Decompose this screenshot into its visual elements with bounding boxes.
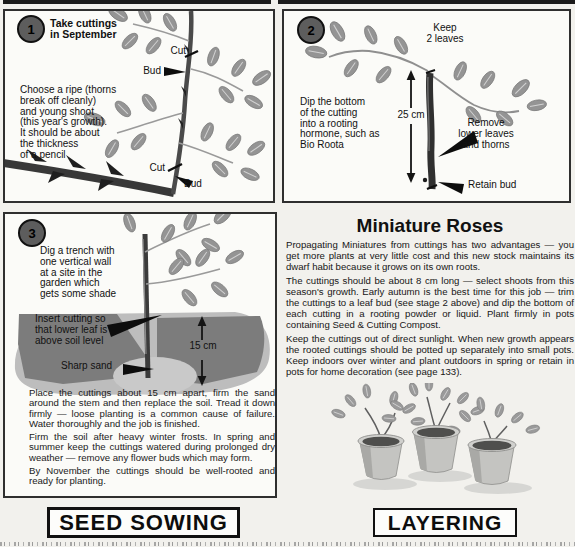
bottom-cut-mark xyxy=(427,185,437,189)
book-page: 1 Take cuttings in September Choose a ri… xyxy=(0,0,575,547)
bud-label-top: Bud xyxy=(119,66,161,77)
bud-nub xyxy=(423,178,427,182)
top-rule-left xyxy=(3,0,271,4)
label-text: LAYERING xyxy=(388,511,503,535)
pointer-arrow xyxy=(438,182,464,194)
measure-15cm-label: 15 cm xyxy=(182,341,224,352)
thorn-icon xyxy=(48,171,65,183)
main-shoot xyxy=(173,11,191,194)
pot-shadow xyxy=(353,478,417,490)
step3-paragraphs: Place the cuttings about 15 cm apart, fi… xyxy=(29,388,275,490)
step1-body-text: Choose a ripe (thorns break off cleanly)… xyxy=(20,85,138,161)
thorn-icon xyxy=(98,179,114,191)
retain-bud-label: Retain bud xyxy=(468,180,516,191)
paragraph: Keep the cuttings out of direct sunlight… xyxy=(286,333,574,377)
section-title: Miniature Roses xyxy=(286,216,574,236)
seed-sowing-section-label: SEED SOWING xyxy=(47,507,240,538)
top-cut-mark xyxy=(426,70,435,73)
thorn-icon xyxy=(178,118,183,129)
top-rule-right xyxy=(278,0,575,4)
dig-trench-label: Dig a trench with one vertical wall at a… xyxy=(40,246,152,300)
paragraph: Place the cuttings about 15 cm apart, fi… xyxy=(29,388,275,429)
keep-leaves-label: Keep 2 leaves xyxy=(412,23,478,45)
cutting-stem xyxy=(429,73,432,189)
cut-label-top: Cut xyxy=(146,46,186,57)
step-number-badge: 1 xyxy=(17,15,45,43)
cropped-next-section-text xyxy=(0,542,575,546)
step-number-badge: 3 xyxy=(18,219,46,247)
step3-panel: 3 Dig a trench with one vertical wall at… xyxy=(3,212,277,498)
measure-25cm-label: 25 cm xyxy=(386,110,436,121)
pointer-arrow xyxy=(164,67,186,76)
thorn-icon xyxy=(106,161,124,176)
layering-section-label: LAYERING xyxy=(373,508,517,537)
paragraph: Propagating Miniatures from cuttings has… xyxy=(286,239,574,272)
step-number-badge: 2 xyxy=(297,16,325,44)
arrowhead-icon xyxy=(198,376,207,386)
paragraph: Firm the soil after heavy winter frosts.… xyxy=(29,432,275,463)
paragraph: By November the cuttings should be well-… xyxy=(29,466,275,487)
miniature-roses-section: Miniature Roses Propagating Miniatures f… xyxy=(286,216,574,377)
potted-miniature-roses-illustration xyxy=(300,383,575,500)
insert-cutting-label: Insert cutting so that lower leaf is abo… xyxy=(35,314,137,346)
remove-leaves-label: Remove lower leaves and thorns xyxy=(442,118,530,150)
arrowhead-icon xyxy=(198,316,207,326)
arrowhead-icon xyxy=(407,173,416,183)
cut-label-bottom: Cut xyxy=(123,163,165,174)
cut-mark-top xyxy=(185,51,198,57)
arrowhead-icon xyxy=(407,70,416,80)
bud-label-bottom: Bud xyxy=(184,179,202,190)
thorn-icon xyxy=(181,86,186,97)
pointer-arrow xyxy=(123,364,154,375)
sharp-sand-label: Sharp sand xyxy=(61,361,112,372)
step2-panel: 2 Keep 2 leaves Dip the bottom of the cu… xyxy=(282,9,571,203)
step2-body-text: Dip the bottom of the cutting into a roo… xyxy=(300,97,394,151)
step1-title: Take cuttings in September xyxy=(50,18,117,40)
label-text: SEED SOWING xyxy=(59,510,228,536)
step1-panel: 1 Take cuttings in September Choose a ri… xyxy=(3,9,275,203)
cut-mark-bottom xyxy=(168,164,182,171)
paragraph: The cuttings should be about 8 cm long —… xyxy=(286,275,574,330)
